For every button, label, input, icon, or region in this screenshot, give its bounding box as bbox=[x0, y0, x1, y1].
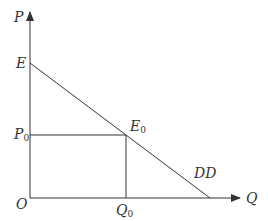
demand-diagram: P Q O E P0 E0 Q0 DD bbox=[0, 0, 268, 221]
demand-curve bbox=[30, 63, 210, 198]
equilibrium-label: E0 bbox=[129, 118, 146, 135]
price-label: P0 bbox=[13, 126, 29, 143]
y-axis-label: P bbox=[13, 9, 24, 25]
intercept-label: E bbox=[15, 55, 26, 71]
curve-label: DD bbox=[193, 165, 216, 181]
quantity-label: Q0 bbox=[116, 202, 133, 219]
origin-label: O bbox=[16, 196, 28, 212]
x-axis-label: Q bbox=[246, 190, 258, 206]
